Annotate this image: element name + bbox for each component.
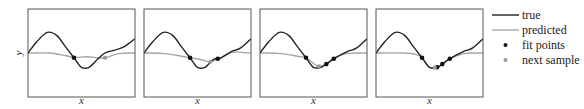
- legend-dot-icon: [504, 43, 508, 47]
- fit-point: [440, 62, 445, 67]
- legend-item-true: true: [492, 8, 541, 22]
- legend-item-fit-points: fit points: [504, 38, 566, 52]
- legend-label: fit points: [522, 38, 565, 52]
- legend-dot-icon: [504, 58, 508, 62]
- legend-item-next-sample: next sample: [504, 53, 580, 67]
- next-sample-point: [103, 56, 107, 60]
- panels: xyxxx: [12, 9, 483, 106]
- fit-point: [304, 55, 309, 60]
- legend-label: true: [522, 8, 541, 22]
- next-sample-point: [208, 60, 212, 64]
- fit-point: [72, 55, 77, 60]
- predicted-line: [260, 53, 367, 66]
- panel-4: x: [376, 9, 483, 106]
- legend-label: next sample: [522, 53, 580, 67]
- x-axis-label: x: [426, 94, 432, 106]
- x-axis-label: x: [310, 94, 316, 106]
- figure: xyxxx truepredictedfit pointsnext sample: [0, 0, 584, 109]
- next-sample-point: [433, 65, 437, 69]
- predicted-line: [376, 53, 483, 68]
- true-line: [144, 32, 251, 68]
- panel-1: xy: [12, 9, 135, 106]
- fit-point: [448, 56, 453, 61]
- panel-2: x: [144, 9, 251, 106]
- fit-point: [216, 56, 221, 61]
- fit-point: [324, 62, 329, 67]
- legend: truepredictedfit pointsnext sample: [492, 8, 580, 67]
- y-axis-label: y: [12, 50, 24, 56]
- fit-point: [420, 55, 425, 60]
- next-sample-point: [317, 64, 321, 68]
- legend-label: predicted: [522, 23, 567, 37]
- panel-3: x: [260, 9, 367, 106]
- predicted-line: [144, 52, 251, 62]
- true-line: [376, 32, 483, 68]
- predicted-line: [28, 53, 135, 58]
- fit-point: [188, 55, 193, 60]
- legend-item-predicted: predicted: [492, 23, 567, 37]
- fit-point: [332, 56, 337, 61]
- true-line: [28, 32, 135, 68]
- x-axis-label: x: [78, 94, 84, 106]
- x-axis-label: x: [194, 94, 200, 106]
